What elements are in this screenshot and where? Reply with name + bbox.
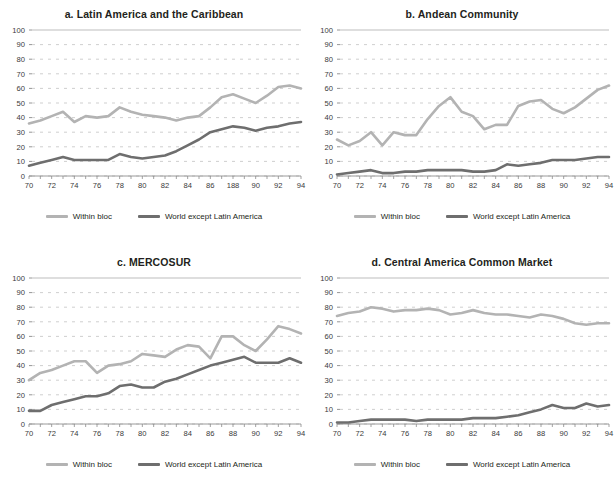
y-tick-label: 0 <box>21 172 25 181</box>
series-line-world-except-latin-america <box>29 357 301 411</box>
y-tick-label: 30 <box>17 376 25 385</box>
line-chart-c: 0102030405060708090100707274767880828486… <box>0 272 308 454</box>
y-tick-label: 70 <box>325 318 333 327</box>
plot-area-b: 0102030405060708090100707274767880828486… <box>308 24 616 206</box>
y-tick-label: 0 <box>329 420 333 429</box>
x-tick-label: 70 <box>333 181 341 190</box>
plot-area-d: 0102030405060708090100707274767880828486… <box>308 272 616 454</box>
y-tick-label: 60 <box>17 84 25 93</box>
y-tick-label: 30 <box>325 376 333 385</box>
x-tick-label: 92 <box>274 429 282 438</box>
chart-panel-d: d. Central America Common Market 0102030… <box>308 248 616 496</box>
x-tick-label: 76 <box>401 429 409 438</box>
x-tick-label: 94 <box>297 429 305 438</box>
legend-label-world-except: World except Latin America <box>473 212 570 221</box>
series-line-world-except-latin-america <box>29 122 301 166</box>
y-tick-label: 40 <box>325 361 333 370</box>
legend-label-within-bloc: Within bloc <box>73 212 112 221</box>
y-tick-label: 50 <box>17 99 25 108</box>
x-tick-label: 80 <box>138 429 146 438</box>
x-tick-label: 88 <box>537 429 545 438</box>
y-tick-label: 80 <box>17 55 25 64</box>
chart-panel-a: a. Latin America and the Caribbean 01020… <box>0 0 308 248</box>
x-tick-label: 188 <box>227 181 240 190</box>
x-tick-label: 70 <box>25 181 33 190</box>
x-tick-label: 72 <box>47 429 55 438</box>
y-tick-label: 10 <box>17 157 25 166</box>
x-tick-label: 82 <box>161 429 169 438</box>
legend-swatch-within-bloc <box>354 215 376 218</box>
y-tick-label: 10 <box>325 157 333 166</box>
figure-panel-grid: a. Latin America and the Caribbean 01020… <box>0 0 616 496</box>
legend-label-within-bloc: Within bloc <box>73 460 112 469</box>
legend-label-world-except: World except Latin America <box>165 460 262 469</box>
x-tick-label: 90 <box>559 429 567 438</box>
series-line-within-bloc <box>29 85 301 123</box>
y-tick-label: 100 <box>12 26 25 35</box>
chart-title-a: a. Latin America and the Caribbean <box>0 8 308 20</box>
y-tick-label: 80 <box>325 55 333 64</box>
series-line-within-bloc <box>29 326 301 380</box>
x-tick-label: 82 <box>161 181 169 190</box>
x-tick-label: 86 <box>514 429 522 438</box>
x-tick-label: 78 <box>423 429 431 438</box>
x-tick-label: 76 <box>93 429 101 438</box>
y-tick-label: 70 <box>17 70 25 79</box>
x-tick-label: 74 <box>378 429 386 438</box>
x-tick-label: 80 <box>138 181 146 190</box>
y-tick-label: 50 <box>325 347 333 356</box>
x-tick-label: 76 <box>93 181 101 190</box>
legend-swatch-world-except <box>138 463 160 466</box>
legend-a: Within bloc World except Latin America <box>0 212 308 221</box>
x-tick-label: 82 <box>469 181 477 190</box>
x-tick-label: 82 <box>469 429 477 438</box>
x-tick-label: 86 <box>514 181 522 190</box>
x-tick-label: 80 <box>446 181 454 190</box>
x-tick-label: 86 <box>206 181 214 190</box>
y-tick-label: 10 <box>17 405 25 414</box>
legend-entry-within-bloc: Within bloc <box>46 212 112 221</box>
x-tick-label: 94 <box>605 429 613 438</box>
y-tick-label: 20 <box>17 143 25 152</box>
y-tick-label: 10 <box>325 405 333 414</box>
y-tick-label: 90 <box>325 288 333 297</box>
legend-entry-world-except: World except Latin America <box>446 460 570 469</box>
x-tick-label: 84 <box>491 181 499 190</box>
line-chart-b: 0102030405060708090100707274767880828486… <box>308 24 616 206</box>
y-tick-label: 90 <box>17 288 25 297</box>
x-tick-label: 84 <box>183 181 191 190</box>
legend-entry-within-bloc: Within bloc <box>354 460 420 469</box>
legend-label-world-except: World except Latin America <box>165 212 262 221</box>
plot-area-c: 0102030405060708090100707274767880828486… <box>0 272 308 454</box>
line-chart-a: 0102030405060708090100707274767880828486… <box>0 24 308 206</box>
y-tick-label: 30 <box>325 128 333 137</box>
y-tick-label: 60 <box>17 332 25 341</box>
legend-entry-world-except: World except Latin America <box>446 212 570 221</box>
series-line-world-except-latin-america <box>337 157 609 175</box>
legend-label-world-except: World except Latin America <box>473 460 570 469</box>
x-tick-label: 84 <box>183 429 191 438</box>
x-tick-label: 72 <box>355 429 363 438</box>
legend-swatch-world-except <box>446 463 468 466</box>
x-tick-label: 84 <box>491 429 499 438</box>
x-tick-label: 78 <box>115 429 123 438</box>
x-tick-label: 88 <box>229 429 237 438</box>
x-tick-label: 92 <box>274 181 282 190</box>
x-tick-label: 90 <box>251 181 259 190</box>
y-tick-label: 70 <box>17 318 25 327</box>
legend-swatch-within-bloc <box>354 463 376 466</box>
chart-title-b: b. Andean Community <box>308 8 616 20</box>
x-tick-label: 72 <box>355 181 363 190</box>
series-line-within-bloc <box>337 85 609 145</box>
y-tick-label: 70 <box>325 70 333 79</box>
x-tick-label: 92 <box>582 429 590 438</box>
x-tick-label: 70 <box>25 429 33 438</box>
legend-swatch-within-bloc <box>46 463 68 466</box>
y-tick-label: 80 <box>17 303 25 312</box>
y-tick-label: 50 <box>17 347 25 356</box>
x-tick-label: 88 <box>537 181 545 190</box>
chart-panel-b: b. Andean Community 01020304050607080901… <box>308 0 616 248</box>
legend-entry-world-except: World except Latin America <box>138 212 262 221</box>
series-line-world-except-latin-america <box>337 404 609 423</box>
legend-entry-within-bloc: Within bloc <box>46 460 112 469</box>
